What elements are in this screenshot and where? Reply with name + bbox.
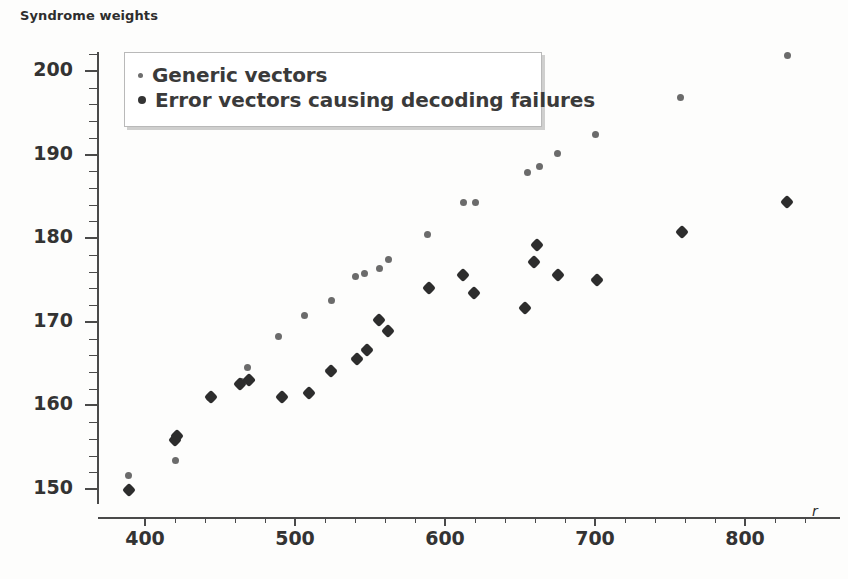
data-point-generic-vector <box>592 131 599 138</box>
y-tick-label: 150 <box>13 476 73 498</box>
y-tick-label: 200 <box>13 58 73 80</box>
legend-label: Error vectors causing decoding failures <box>155 88 595 112</box>
x-tick-minor <box>775 517 776 523</box>
y-tick-minor <box>89 104 97 105</box>
data-point-generic-vector <box>677 94 684 101</box>
y-tick-minor <box>89 171 97 172</box>
x-tick-minor <box>415 517 416 523</box>
data-point-generic-vector <box>352 273 359 280</box>
data-point-generic-vector <box>328 297 335 304</box>
y-tick-minor <box>89 188 97 189</box>
x-tick-minor <box>535 517 536 523</box>
y-tick-major <box>85 70 97 72</box>
x-tick-major <box>744 517 746 526</box>
x-tick-minor <box>655 517 656 523</box>
y-tick-minor <box>89 389 97 390</box>
x-tick-minor <box>505 517 506 523</box>
y-tick-minor <box>89 456 97 457</box>
y-tick-minor <box>89 422 97 423</box>
data-point-error-vector <box>529 238 543 252</box>
legend-entry-error-vectors: Error vectors causing decoding failures <box>138 88 595 112</box>
x-tick-minor <box>235 517 236 523</box>
x-tick-minor <box>385 517 386 523</box>
x-tick-major <box>294 517 296 526</box>
data-point-error-vector <box>550 268 564 282</box>
data-point-error-vector <box>360 343 374 357</box>
data-point-error-vector <box>675 225 689 239</box>
data-point-error-vector <box>241 373 255 387</box>
x-tick-minor <box>175 517 176 523</box>
y-tick-minor <box>89 255 97 256</box>
y-tick-minor <box>89 288 97 289</box>
data-point-error-vector <box>780 195 794 209</box>
data-point-error-vector <box>274 390 288 404</box>
data-point-error-vector <box>589 273 603 287</box>
y-tick-major <box>85 321 97 323</box>
x-tick-label: 700 <box>560 527 630 549</box>
y-tick-minor <box>89 472 97 473</box>
data-point-generic-vector <box>125 472 132 479</box>
y-tick-minor <box>89 305 97 306</box>
x-tick-label: 800 <box>710 527 780 549</box>
legend-entry-generic-vectors: Generic vectors <box>138 63 327 87</box>
data-point-generic-vector <box>206 394 213 401</box>
y-tick-label: 180 <box>13 225 73 247</box>
data-point-error-vector <box>372 313 386 327</box>
data-point-error-vector <box>169 429 183 443</box>
y-tick-major <box>85 237 97 239</box>
data-point-generic-vector <box>172 457 179 464</box>
data-point-error-vector <box>301 386 315 400</box>
x-tick-minor <box>625 517 626 523</box>
x-tick-major <box>444 517 446 526</box>
y-tick-label: 160 <box>13 392 73 414</box>
y-tick-major <box>85 154 97 156</box>
data-point-error-vector <box>526 255 540 269</box>
x-tick-label: 400 <box>110 527 180 549</box>
y-tick-minor <box>89 54 97 55</box>
x-tick-major <box>594 517 596 526</box>
x-tick-minor <box>265 517 266 523</box>
data-point-error-vector <box>456 268 470 282</box>
data-point-generic-vector <box>361 270 368 277</box>
y-tick-minor <box>89 205 97 206</box>
y-tick-minor <box>89 439 97 440</box>
x-tick-minor <box>715 517 716 523</box>
chart-figure: Syndrome weights r 150160170180190200400… <box>0 0 848 579</box>
x-tick-label: 600 <box>410 527 480 549</box>
data-point-error-vector <box>381 324 395 338</box>
data-point-generic-vector <box>784 52 791 59</box>
chart-legend: Generic vectors Error vectors causing de… <box>124 52 542 127</box>
data-point-error-vector <box>324 364 338 378</box>
data-point-generic-vector <box>385 256 392 263</box>
data-point-error-vector <box>204 390 218 404</box>
y-axis-line <box>97 52 99 504</box>
y-tick-minor <box>89 272 97 273</box>
data-point-generic-vector <box>301 312 308 319</box>
data-point-generic-vector <box>460 199 467 206</box>
x-tick-major <box>144 517 146 526</box>
y-tick-minor <box>89 339 97 340</box>
y-tick-major <box>85 404 97 406</box>
data-point-error-vector <box>349 352 363 366</box>
data-point-error-vector <box>168 433 182 447</box>
y-tick-minor <box>89 372 97 373</box>
y-tick-minor <box>89 138 97 139</box>
y-axis-title: Syndrome weights <box>20 8 158 23</box>
data-point-error-vector <box>232 377 246 391</box>
y-tick-label: 190 <box>13 142 73 164</box>
x-tick-minor <box>355 517 356 523</box>
y-tick-minor <box>89 221 97 222</box>
y-tick-minor <box>89 355 97 356</box>
data-point-error-vector <box>121 483 135 497</box>
y-tick-label: 170 <box>13 309 73 331</box>
data-point-generic-vector <box>376 265 383 272</box>
data-point-generic-vector <box>238 378 245 385</box>
data-point-generic-vector <box>244 364 251 371</box>
data-point-error-vector <box>517 301 531 315</box>
legend-marker-large-dot-icon <box>138 96 146 104</box>
y-tick-minor <box>89 88 97 89</box>
data-point-error-vector <box>466 286 480 300</box>
legend-label: Generic vectors <box>152 63 327 87</box>
x-tick-minor <box>325 517 326 523</box>
y-tick-minor <box>89 121 97 122</box>
